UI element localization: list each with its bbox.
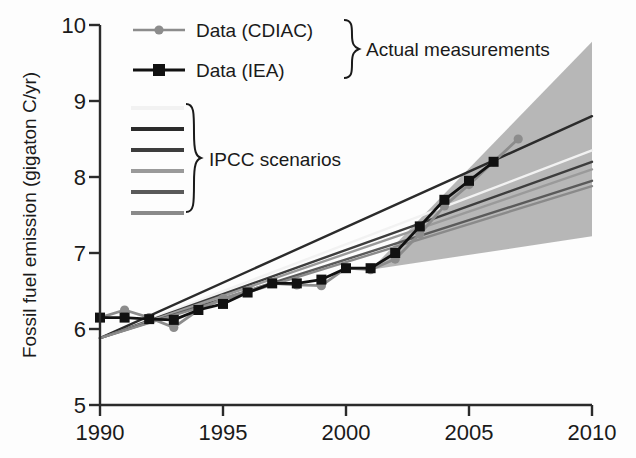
brace-ipcc-scenarios-icon [186, 104, 201, 212]
legend-label-cdiac: Data (CDIAC) [196, 20, 313, 41]
uncertainty-band [371, 42, 592, 270]
data-point-marker [415, 221, 425, 231]
data-point-marker [489, 157, 499, 167]
chart-svg: 10 9 8 7 6 5 1990 1995 2000 2005 2010 Fo… [0, 0, 636, 458]
x-tick-label-1990: 1990 [76, 420, 125, 445]
y-tick-label-6: 6 [74, 317, 86, 342]
data-point-marker [120, 313, 130, 323]
data-point-marker [464, 176, 474, 186]
annotation-ipcc-scenarios: IPCC scenarios [209, 149, 341, 170]
legend-marker-circle-icon [154, 25, 163, 34]
x-axis-ticks [100, 405, 592, 416]
x-tick-label-1995: 1995 [199, 420, 248, 445]
x-tick-label-2000: 2000 [322, 420, 371, 445]
data-point-marker [439, 195, 449, 205]
series-line-5 [100, 169, 592, 338]
y-axis-title: Fossil fuel emission (gigaton C/yr) [19, 72, 40, 358]
data-point-marker [366, 263, 376, 273]
y-tick-label-8: 8 [74, 165, 86, 190]
legend-marker-square-icon [153, 64, 165, 76]
brace-actual-measurements-icon [344, 20, 359, 78]
chart-figure: 10 9 8 7 6 5 1990 1995 2000 2005 2010 Fo… [0, 0, 636, 458]
data-point-marker [169, 315, 179, 325]
data-point-marker [218, 299, 228, 309]
legend-label-iea: Data (IEA) [196, 60, 285, 81]
legend-entry-iea[interactable]: Data (IEA) [133, 60, 285, 81]
data-point-marker [267, 278, 277, 288]
x-tick-label-2005: 2005 [445, 420, 494, 445]
data-point-marker [341, 263, 351, 273]
y-tick-label-5: 5 [74, 393, 86, 418]
annotation-actual-measurements: Actual measurements [366, 39, 550, 60]
data-point-marker [514, 134, 523, 143]
data-point-marker [243, 288, 253, 298]
y-axis-ticks [89, 25, 100, 405]
data-point-marker [193, 305, 203, 315]
data-point-marker [292, 278, 302, 288]
y-tick-label-9: 9 [74, 89, 86, 114]
legend-scenario-swatches[interactable] [131, 108, 184, 213]
x-tick-label-2010: 2010 [568, 420, 617, 445]
data-point-marker [390, 248, 400, 258]
data-point-marker [144, 314, 154, 324]
data-point-marker [316, 275, 326, 285]
y-tick-label-10: 10 [62, 13, 86, 38]
legend-entry-cdiac[interactable]: Data (CDIAC) [133, 20, 313, 41]
y-tick-label-7: 7 [74, 241, 86, 266]
